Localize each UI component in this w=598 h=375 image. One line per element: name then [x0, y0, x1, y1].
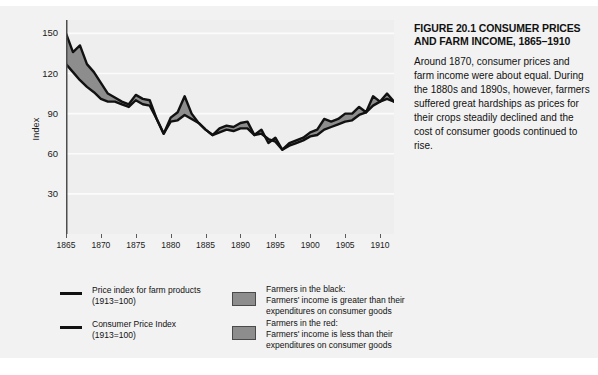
x-axis-tick-label: 1880 [154, 240, 188, 250]
legend-black-desc1: Farmers' income is greater than their [266, 295, 405, 306]
y-axis-tick-label: 120 [30, 69, 58, 79]
x-axis-tick-mark [345, 234, 346, 238]
legend-swatch-line-icon [60, 326, 82, 329]
legend-label-farmers-in-the-red: Farmers in the red: Farmers' income is l… [266, 318, 393, 351]
x-axis-tick-label: 1870 [84, 240, 118, 250]
legend-item-farmers-in-the-red: Farmers in the red: Farmers' income is l… [232, 318, 482, 352]
legend-label-farmers-in-the-black: Farmers in the black: Farmers' income is… [266, 284, 405, 317]
x-axis-tick-mark [310, 234, 311, 238]
x-axis-tick-mark [101, 234, 102, 238]
x-axis: 1865187018751880188518901895190019051910 [66, 234, 394, 264]
x-axis-tick-mark [136, 234, 137, 238]
legend-red-desc1: Farmers' income is less than their [266, 329, 393, 340]
x-axis-tick-label: 1875 [119, 240, 153, 250]
legend-label-cpi-line2: (1913=100) [92, 330, 176, 341]
chart-container: Index 306090120150 186518701875188018851… [22, 20, 394, 278]
x-axis-tick-label: 1895 [258, 240, 292, 250]
legend-black-title: Farmers in the black: [266, 284, 405, 295]
legend-label-cpi-line1: Consumer Price Index [92, 319, 176, 330]
y-axis-tick-label: 30 [30, 189, 58, 199]
y-axis-tick-labels: 306090120150 [30, 20, 58, 234]
x-axis-tick-label: 1865 [49, 240, 83, 250]
income-gap-band [66, 33, 394, 149]
chart-legend: Price index for farm products (1913=100)… [60, 284, 480, 354]
legend-band-entries: Farmers in the black: Farmers' income is… [232, 284, 482, 352]
x-axis-tick-mark [275, 234, 276, 238]
legend-item-farm-products: Price index for farm products (1913=100) [60, 284, 230, 318]
figure-caption-body: Around 1870, consumer prices and farm in… [414, 55, 590, 153]
consumer-price-index-line [66, 64, 394, 150]
x-axis-tick-label: 1890 [223, 240, 257, 250]
chart-svg [66, 20, 394, 234]
x-axis-tick-mark [171, 234, 172, 238]
legend-red-title: Farmers in the red: [266, 318, 393, 329]
x-axis-tick-mark [240, 234, 241, 238]
figure-caption: FIGURE 20.1 CONSUMER PRICES AND FARM INC… [414, 22, 590, 153]
legend-swatch-band-icon [232, 292, 256, 306]
x-axis-tick-mark [380, 234, 381, 238]
legend-swatch-band-icon [232, 326, 256, 340]
y-axis-tick-label: 90 [30, 109, 58, 119]
figure-caption-title: FIGURE 20.1 CONSUMER PRICES AND FARM INC… [414, 22, 590, 48]
x-axis-tick-label: 1910 [363, 240, 397, 250]
legend-label-farm-products-line1: Price index for farm products [92, 285, 201, 296]
legend-line-entries: Price index for farm products (1913=100)… [60, 284, 230, 352]
x-axis-tick-mark [66, 234, 67, 238]
legend-label-farm-products: Price index for farm products (1913=100) [92, 285, 201, 307]
x-axis-tick-label: 1900 [293, 240, 327, 250]
x-axis-tick-mark [206, 234, 207, 238]
y-axis-tick-label: 60 [30, 149, 58, 159]
x-axis-tick-label: 1885 [189, 240, 223, 250]
legend-swatch-line-icon [60, 292, 82, 295]
legend-red-desc2: expenditures on consumer goods [266, 340, 393, 351]
figure-panel: Index 306090120150 186518701875188018851… [0, 6, 598, 358]
farm-products-price-line [66, 33, 394, 149]
x-axis-tick-label: 1905 [328, 240, 362, 250]
y-axis-tick-label: 150 [30, 28, 58, 38]
legend-item-consumer-price-index: Consumer Price Index (1913=100) [60, 318, 230, 352]
plot-area [66, 20, 394, 234]
legend-label-consumer-price-index: Consumer Price Index (1913=100) [92, 319, 176, 341]
legend-label-farm-products-line2: (1913=100) [92, 296, 201, 307]
legend-black-desc2: expenditures on consumer goods [266, 306, 405, 317]
legend-item-farmers-in-the-black: Farmers in the black: Farmers' income is… [232, 284, 482, 318]
